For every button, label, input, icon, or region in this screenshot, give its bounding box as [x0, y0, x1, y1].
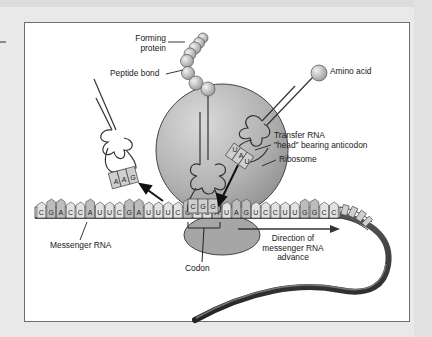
- translation-diagram: CGACCAUUCGAUUUCGCCAUAGUCCUUGGCC: [0, 0, 432, 337]
- forming-protein-chain: [181, 33, 216, 96]
- left-anticodon-3: G: [130, 174, 135, 181]
- mrna-base-letter: C: [322, 209, 327, 216]
- ribosome-small-subunit: [184, 215, 260, 255]
- mrna-base-letter: U: [97, 209, 102, 216]
- label-ribosome: Ribosome: [279, 155, 317, 165]
- mrna-base-letter: C: [78, 209, 83, 216]
- label-transfer-rna-line2: "head" bearing anticodon: [274, 141, 368, 151]
- label-transfer-rna: Transfer RNA "head" bearing anticodon: [274, 131, 368, 150]
- right-anticodon-2: A: [239, 152, 244, 159]
- mrna-base-letter: C: [68, 209, 73, 216]
- mrna-base-letter: C: [263, 209, 268, 216]
- mrna-base-letter: U: [224, 209, 229, 216]
- trna-left-departing: [94, 79, 139, 189]
- right-anticodon-3: U: [244, 158, 249, 165]
- mrna-base-letter: A: [59, 209, 64, 216]
- left-anticodon-2: A: [122, 176, 127, 183]
- center-anticodon-2: G: [200, 203, 205, 210]
- amino-acid-bead: [311, 65, 327, 81]
- mrna-base-letter: G: [243, 209, 248, 216]
- center-anticodon-3: G: [210, 203, 215, 210]
- mrna-base-letter: A: [88, 209, 93, 216]
- label-protein: protein: [120, 44, 166, 54]
- label-messenger-rna: Messenger RNA: [50, 241, 111, 251]
- center-anticodon-1: C: [190, 203, 195, 210]
- label-amino-acid: Amino acid: [330, 67, 371, 77]
- mrna-base-letter: C: [273, 209, 278, 216]
- label-direction-line3: advance: [258, 253, 328, 263]
- mrna-base-letter: C: [39, 209, 44, 216]
- mrna-base-letter: G: [126, 209, 131, 216]
- mrna-base-letter: G: [302, 209, 307, 216]
- label-forming-protein: Forming protein: [120, 34, 166, 53]
- mrna-base-letter: U: [253, 209, 258, 216]
- mrna-base-letter: G: [312, 209, 317, 216]
- mrna-base-letter: U: [146, 209, 151, 216]
- mrna-base-letter: A: [137, 209, 142, 216]
- mrna-base-letter: U: [292, 209, 297, 216]
- mrna-base-letter: C: [117, 209, 122, 216]
- label-direction: Direction of messenger RNA advance: [258, 234, 328, 263]
- mrna-base-letter: U: [107, 209, 112, 216]
- mrna-base-letter: G: [48, 209, 53, 216]
- mrna-base-letter: C: [331, 209, 336, 216]
- right-anticodon-1: U: [232, 146, 237, 153]
- label-codon: Codon: [185, 264, 210, 274]
- mrna-base-letter: U: [166, 209, 171, 216]
- left-anticodon-1: A: [114, 178, 119, 185]
- mrna-base-letter: A: [234, 209, 239, 216]
- label-peptide-bond: Peptide bond: [110, 69, 159, 79]
- mrna-base-letter: C: [175, 209, 180, 216]
- mrna-base-letter: U: [283, 209, 288, 216]
- mrna-base-letter: U: [156, 209, 161, 216]
